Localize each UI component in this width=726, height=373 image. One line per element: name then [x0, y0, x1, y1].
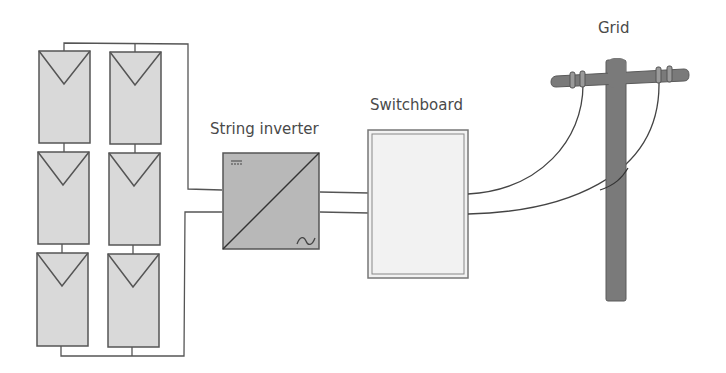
solar-panel	[37, 253, 88, 346]
diagram-canvas	[0, 0, 726, 373]
solar-panel	[108, 254, 159, 347]
switchboard-label: Switchboard	[370, 98, 463, 113]
solar-panel	[109, 153, 160, 245]
grid-wire-2	[468, 83, 659, 214]
solar-panel	[39, 51, 90, 143]
grid-wiring	[468, 83, 659, 214]
solar-array	[37, 51, 161, 347]
solar-panel	[110, 52, 161, 144]
string-inverter-label: String inverter	[210, 122, 319, 137]
utility-pole	[551, 58, 689, 301]
ac-wiring	[320, 192, 369, 213]
grid-label: Grid	[598, 21, 629, 36]
switchboard	[368, 130, 468, 278]
solar-panel	[38, 152, 89, 244]
grid-wire-1	[468, 85, 583, 194]
string-inverter	[223, 153, 319, 249]
